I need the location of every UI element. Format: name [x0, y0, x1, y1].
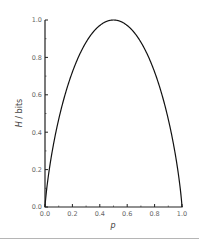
tick-labels: 0.00.20.40.60.81.00.00.20.40.60.81.0	[32, 16, 188, 218]
y-tick-label: 1.0	[32, 16, 42, 24]
x-axis-label: p	[109, 221, 115, 230]
y-tick-label: 0.2	[32, 166, 42, 174]
x-tick-label: 0.2	[67, 210, 77, 218]
plot-axes	[45, 20, 182, 207]
y-tick-label: 0.8	[32, 54, 42, 62]
separator-line	[0, 238, 199, 239]
x-tick-label: 1.0	[177, 210, 187, 218]
y-tick-label: 0.6	[32, 91, 42, 99]
entropy-curve	[45, 20, 182, 207]
x-tick-label: 0.6	[122, 210, 132, 218]
x-tick-label: 0.4	[95, 210, 105, 218]
axis-ticks	[45, 20, 182, 207]
entropy-chart: 0.00.20.40.60.81.00.00.20.40.60.81.0 p H…	[0, 0, 199, 248]
y-tick-label: 0.0	[32, 203, 42, 211]
y-tick-label: 0.4	[32, 129, 42, 137]
y-axis-label: H / bits	[15, 99, 24, 127]
x-tick-label: 0.8	[149, 210, 159, 218]
